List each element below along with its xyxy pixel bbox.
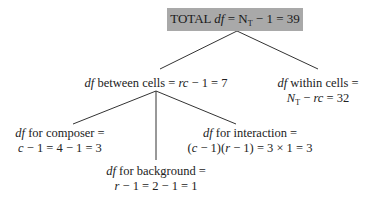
- line-between-to-composer: [73, 91, 156, 124]
- rc-symbol: rc: [178, 76, 188, 90]
- interaction-mid: − 1)(: [197, 141, 225, 155]
- rc-symbol: rc: [313, 91, 323, 105]
- df-partition-diagram: TOTAL df = NT − 1 = 39 df between cells …: [0, 0, 371, 201]
- df-symbol: df: [203, 126, 213, 140]
- total-eq: = N: [224, 11, 247, 26]
- interaction-node: df for interaction = (c − 1)(r − 1) = 3 …: [182, 126, 318, 156]
- total-rest: − 1 = 39: [253, 11, 300, 26]
- total-prefix: TOTAL: [170, 11, 214, 26]
- between-cells-node: df between cells = rc − 1 = 7: [72, 76, 240, 91]
- composer-formula: − 1 = 4 − 1 = 3: [24, 141, 102, 155]
- df-symbol: df: [106, 164, 116, 178]
- composer-node: df for composer = c − 1 = 4 − 1 = 3: [8, 126, 112, 156]
- between-rest: − 1 = 7: [188, 76, 227, 90]
- background-label: for background =: [116, 164, 206, 178]
- df-symbol: df: [277, 76, 287, 90]
- interaction-label: for interaction =: [213, 126, 297, 140]
- between-label: between cells =: [94, 76, 178, 90]
- within-label: within cells =: [287, 76, 358, 90]
- df-symbol: df: [85, 76, 95, 90]
- background-formula: − 1 = 2 − 1 = 1: [119, 179, 197, 193]
- n-symbol: N: [287, 91, 295, 105]
- within-cells-node: df within cells = NT − rc = 32: [264, 76, 371, 110]
- line-total-to-within: [237, 31, 318, 69]
- interaction-rest: − 1) = 3 × 1 = 3: [230, 141, 312, 155]
- total-label: TOTAL df = NT − 1 = 39: [170, 11, 300, 28]
- composer-label: for composer =: [25, 126, 105, 140]
- within-rest: = 32: [323, 91, 349, 105]
- line-between-to-interaction: [156, 91, 236, 124]
- within-minus: −: [300, 91, 313, 105]
- total-df-box: TOTAL df = NT − 1 = 39: [167, 8, 303, 31]
- line-total-to-between: [160, 31, 237, 69]
- df-symbol: df: [214, 11, 224, 26]
- df-symbol: df: [15, 126, 25, 140]
- background-node: df for background = r − 1 = 2 − 1 = 1: [100, 164, 212, 194]
